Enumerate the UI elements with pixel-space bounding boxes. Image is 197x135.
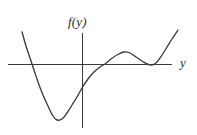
function-curve: [22, 30, 178, 120]
figure-container: f(y) y: [0, 0, 197, 135]
horizontal-axis-label: y: [180, 56, 186, 69]
plot-area: [0, 0, 197, 135]
vertical-axis-label: f(y): [68, 15, 87, 28]
